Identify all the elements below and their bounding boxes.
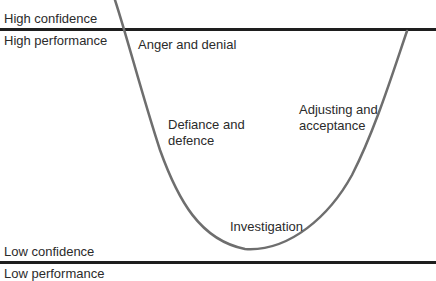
stage-label-line2: acceptance bbox=[299, 118, 378, 134]
stage-label-line1: Adjusting and bbox=[299, 102, 378, 118]
stage-label-line1: Defiance and bbox=[168, 117, 245, 133]
stage-anger-and-denial: Anger and denial bbox=[138, 37, 236, 52]
stage-label-line1: Anger and denial bbox=[138, 37, 236, 52]
stage-adjusting-and-acceptance: Adjusting and acceptance bbox=[299, 102, 378, 134]
stage-defiance-and-defence: Defiance and defence bbox=[168, 117, 245, 149]
stage-label-line1: Investigation bbox=[230, 219, 303, 234]
stage-label-line2: defence bbox=[168, 133, 245, 149]
stage-investigation: Investigation bbox=[230, 219, 303, 234]
